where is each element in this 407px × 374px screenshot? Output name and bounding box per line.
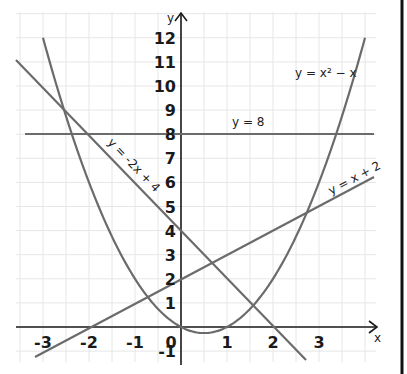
y-tick-label: 12 bbox=[154, 29, 176, 48]
x-tick-label: -1 bbox=[126, 333, 144, 352]
x-tick-label: -2 bbox=[80, 333, 98, 352]
x-tick-label: -3 bbox=[34, 333, 52, 352]
y-tick-labels: -1123456789101112 bbox=[154, 29, 176, 361]
y-tick-label: 9 bbox=[165, 101, 176, 120]
x-tick-labels: -3-2-10123 bbox=[34, 333, 324, 352]
graph: -1123456789101112 -3-2-10123 y x y = x² … bbox=[0, 0, 407, 374]
decreasing-line-label: y = -2x + 4 bbox=[105, 135, 163, 194]
y-axis-label: y bbox=[167, 11, 174, 25]
line-decreasing bbox=[16, 60, 306, 360]
horizontal-line-label: y = 8 bbox=[232, 115, 264, 129]
x-tick-label: 2 bbox=[267, 333, 278, 352]
x-axis-label: x bbox=[374, 331, 381, 345]
x-tick-label: 1 bbox=[221, 333, 232, 352]
y-tick-label: 2 bbox=[165, 270, 176, 289]
y-tick-label: 11 bbox=[154, 53, 176, 72]
y-tick-label: 5 bbox=[165, 198, 176, 217]
y-tick-label: 6 bbox=[165, 173, 176, 192]
grid bbox=[16, 12, 376, 362]
x-tick-label: 3 bbox=[313, 333, 324, 352]
parabola-label: y = x² − x bbox=[295, 66, 356, 80]
y-tick-label: 4 bbox=[165, 222, 176, 241]
x-tick-label: 0 bbox=[165, 333, 176, 352]
y-tick-label: 7 bbox=[165, 149, 176, 168]
y-tick-label: 3 bbox=[165, 246, 176, 265]
y-tick-label: 8 bbox=[165, 125, 176, 144]
y-tick-label: 10 bbox=[154, 77, 176, 96]
y-tick-label: 1 bbox=[165, 294, 176, 313]
